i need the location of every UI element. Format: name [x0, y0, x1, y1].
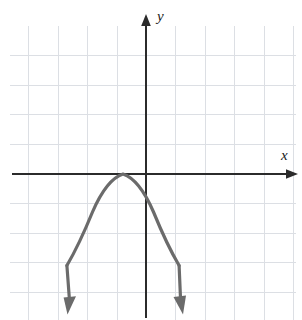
x-axis — [12, 169, 298, 179]
x-axis-arrowhead — [286, 169, 298, 179]
parabola-curve — [64, 174, 186, 315]
graph-figure: y x — [0, 0, 302, 320]
y-axis — [141, 14, 151, 318]
y-axis-label: y — [157, 9, 164, 24]
y-axis-arrowhead — [141, 14, 151, 26]
parabola-left-arrowhead — [64, 296, 76, 314]
x-axis-label: x — [281, 148, 288, 163]
coordinate-plane-svg — [0, 0, 302, 320]
